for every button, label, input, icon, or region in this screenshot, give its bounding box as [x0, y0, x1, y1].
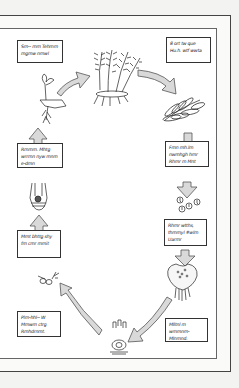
- frond-sori-illustration: [163, 96, 206, 122]
- stage-label-zygote: Rmmm. Mhtg wrrmn nyw mnm e-dmn: [17, 143, 63, 168]
- mature-fern-illustration: [94, 50, 142, 106]
- young-sporophyte-illustration: [40, 74, 66, 124]
- arrow-down-icon: [175, 250, 195, 266]
- stage-label-spores: Rhmr wtths, thmmyl #wlm Uarmr: [164, 219, 207, 246]
- prothallus-illustration: [168, 264, 197, 301]
- antheridium-illustration: [110, 320, 128, 354]
- stage-label-fronds-sori: 8 ort tw que Hu.h. wtf wwta: [166, 37, 211, 63]
- stage-label-archegonium-sperm: Plm-hhl-- W Mmwm ctrg Rmhdrnmt.: [17, 311, 61, 337]
- spores-illustration: [177, 197, 200, 212]
- arrow-down-icon: [177, 182, 197, 198]
- arrow-up-left-icon: [60, 283, 102, 335]
- arrow-up-right-icon: [57, 72, 90, 96]
- stage-label-prothallus: Mlltnl m wmmnm- Mlnmnd.: [165, 318, 208, 342]
- stage-label-fertilization: Mmt bhttg shy fm cmr mmit: [17, 230, 61, 258]
- arrow-down-right-icon: [138, 70, 176, 94]
- stage-label-young-sporophyte: Sm-- mm Tehmm mgmw nmwl: [17, 40, 63, 63]
- stage-label-sporangia: Fmn mh.lm nwmhgh hmr Rhmr m Mnt: [165, 141, 209, 167]
- sperm-illustration: [38, 272, 59, 285]
- archegonium-illustration: [30, 183, 47, 210]
